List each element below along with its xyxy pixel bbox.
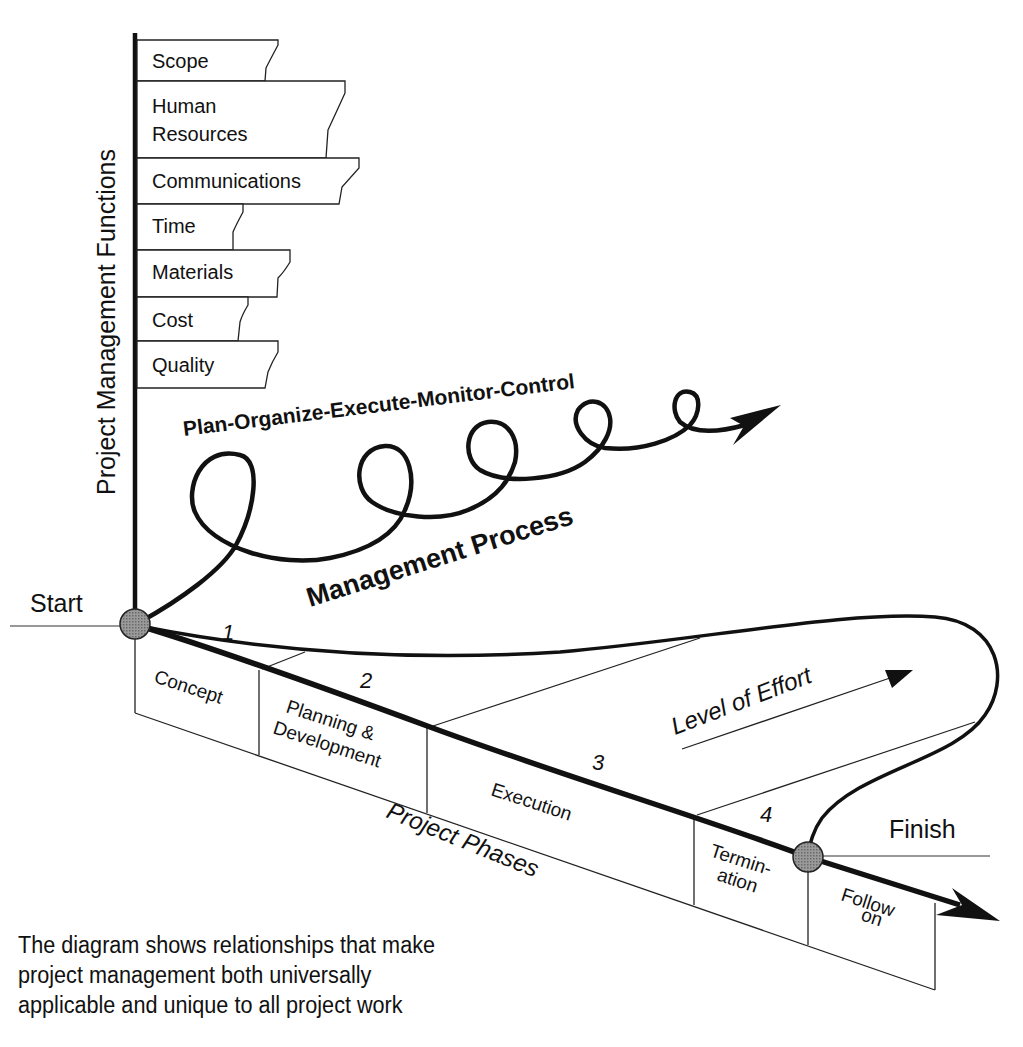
phase-labels: Concept Planning & Development Execution… bbox=[152, 666, 898, 931]
phase-label-execution: Execution bbox=[489, 779, 575, 825]
caption-line-3: applicable and unique to all project wor… bbox=[18, 990, 435, 1020]
project-management-diagram: Project Management Functions Scope Human… bbox=[0, 0, 1023, 1047]
function-label-communications: Communications bbox=[152, 170, 301, 192]
function-label-resources: Resources bbox=[152, 123, 248, 145]
phase-number-1: 1 bbox=[222, 620, 234, 645]
function-box-human-resources bbox=[137, 81, 345, 158]
function-label-human: Human bbox=[152, 95, 216, 117]
finish-node bbox=[793, 842, 823, 872]
phase-label-concept: Concept bbox=[152, 666, 226, 708]
function-label-cost: Cost bbox=[152, 309, 194, 331]
phase-axis-label: Project Phases bbox=[383, 797, 543, 883]
level-of-effort-label: Level of Effort bbox=[667, 661, 816, 740]
phase-number-4: 4 bbox=[760, 802, 772, 827]
function-boxes bbox=[137, 40, 359, 388]
finish-label: Finish bbox=[889, 815, 956, 843]
function-label-time: Time bbox=[152, 215, 196, 237]
phase-axis-arrowhead bbox=[936, 888, 1000, 921]
caption-line-2: project management both universally bbox=[18, 960, 435, 990]
functions-axis-label: Project Management Functions bbox=[92, 149, 120, 495]
start-label: Start bbox=[30, 589, 83, 617]
caption-line-1: The diagram shows relationships that mak… bbox=[18, 930, 435, 960]
phase-axis bbox=[140, 626, 960, 905]
phase-number-2: 2 bbox=[359, 668, 372, 693]
phase-number-3: 3 bbox=[592, 750, 605, 775]
function-label-quality: Quality bbox=[152, 354, 214, 376]
caption: The diagram shows relationships that mak… bbox=[18, 930, 435, 1020]
start-node bbox=[120, 609, 150, 639]
level-of-effort-arrowhead bbox=[885, 670, 913, 688]
function-label-materials: Materials bbox=[152, 261, 233, 283]
function-label-scope: Scope bbox=[152, 50, 209, 72]
